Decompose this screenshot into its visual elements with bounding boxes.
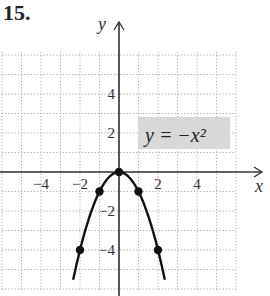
svg-text:−2: −2 [99, 203, 115, 219]
svg-text:2: 2 [108, 125, 116, 141]
data-point [76, 246, 84, 254]
svg-text:2: 2 [154, 176, 162, 192]
svg-text:−2: −2 [72, 176, 88, 192]
data-point [154, 246, 162, 254]
svg-text:−4: −4 [33, 176, 49, 192]
data-point [95, 187, 103, 195]
parabola-chart: y = −x² −4−22442−2−4 x y [0, 0, 270, 296]
data-point [134, 187, 142, 195]
equation-label: y = −x² [143, 124, 207, 147]
svg-text:−4: −4 [99, 242, 115, 258]
axes [0, 22, 262, 296]
svg-text:4: 4 [193, 176, 201, 192]
svg-text:4: 4 [108, 86, 116, 102]
x-axis-label: x [254, 176, 263, 196]
y-axis-label: y [96, 14, 106, 34]
data-point [115, 168, 123, 176]
